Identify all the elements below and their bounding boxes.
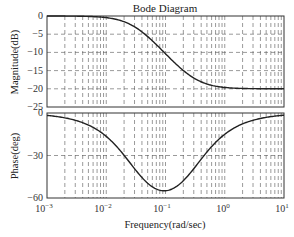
tick-label: −15 [27,65,43,76]
phase-y-ticks: 0 −30 −60 [27,107,43,203]
x-ticks: 10−3 10−2 10−1 100 101 [35,202,289,214]
bode-diagram: Bode Diagram 0 −5 −10 −15 −20 −25 0 −30 … [0,0,294,237]
tick-label: 0 [38,107,43,118]
tick-label: 100 [216,202,230,214]
phase-y-label: Phase(deg) [9,132,21,179]
magnitude-y-ticks: 0 −5 −10 −15 −20 −25 [27,10,43,112]
chart-title: Bode Diagram [133,2,198,14]
tick-label: −60 [27,192,43,203]
tick-label: −30 [27,150,43,161]
x-axis-label: Frequency(rad/sec) [124,219,206,231]
tick-label: 10−3 [35,202,53,214]
tick-label: 10−2 [94,202,112,214]
tick-label: −10 [27,46,43,57]
tick-label: 0 [38,10,43,21]
tick-label: 10−1 [153,202,171,214]
magnitude-y-label: Magnitude(dB) [9,29,21,94]
tick-label: −5 [32,28,43,39]
tick-label: −20 [27,83,43,94]
tick-label: 101 [275,202,289,214]
